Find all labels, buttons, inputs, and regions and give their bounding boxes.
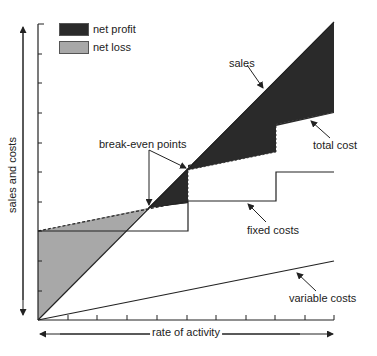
fixed-costs-label: fixed costs	[247, 225, 299, 236]
x-ticks	[68, 315, 334, 320]
net-loss-swatch	[59, 41, 89, 54]
variable-costs-pointer	[297, 273, 316, 291]
x-axis-label: rate of activity	[150, 326, 222, 338]
break-even-label: break-even points	[99, 139, 186, 150]
total-cost-pointer	[311, 121, 330, 138]
sales-line	[38, 22, 334, 320]
variable-costs-label: variable costs	[289, 293, 356, 304]
break-even-pointer-2	[149, 150, 186, 168]
net-loss-label: net loss	[93, 42, 131, 53]
legend-net-profit: net profit	[59, 23, 136, 36]
total-cost-label: total cost	[313, 140, 357, 151]
legend-net-loss: net loss	[59, 41, 131, 54]
net-profit-swatch	[59, 23, 89, 36]
sales-label: sales	[229, 58, 255, 69]
fixed-costs-pointer	[248, 204, 266, 222]
y-axis-label: sales and costs	[6, 135, 18, 215]
net-profit-label: net profit	[93, 24, 136, 35]
